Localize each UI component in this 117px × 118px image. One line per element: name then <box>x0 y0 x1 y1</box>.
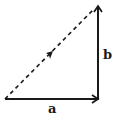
vector-diagram: a b <box>0 0 117 118</box>
label-a: a <box>48 101 57 116</box>
label-b: b <box>103 47 112 62</box>
resultant-mid-arrowhead-icon <box>46 51 53 59</box>
diagram-svg: a b <box>0 0 117 118</box>
